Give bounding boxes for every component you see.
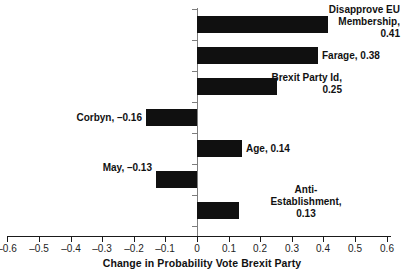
bar-label-farage: Farage, 0.38 [322,50,402,62]
x-axis-title: Change in Probability Vote Brexit Party [0,257,404,269]
x-axis-tick [39,237,40,242]
x-axis-tick-label: –0.3 [92,243,111,254]
x-axis-tick [260,237,261,242]
x-axis-tick [323,237,324,242]
x-axis-tick-label: –0.6 [0,243,17,254]
category-tick [192,133,197,134]
bar-age [197,140,242,157]
bar-label-age: Age, 0.14 [246,143,326,155]
bar-label-may: May, –0.13 [62,162,152,174]
bar-label-corbyn: Corbyn, –0.16 [44,112,142,124]
category-tick [192,164,197,165]
x-axis-tick-label: 0.3 [285,243,299,254]
bar-may [156,171,197,188]
x-axis-tick-label: –0.2 [124,243,143,254]
x-axis-tick [292,237,293,242]
bar-chart: Disapprove EU Membership, 0.41 Farage, 0… [0,0,404,272]
x-axis-tick [197,237,198,242]
x-axis-tick [71,237,72,242]
x-axis-tick [134,237,135,242]
bar-label-brexit-party-id: Brexit Party Id, 0.25 [216,72,342,96]
x-axis-tick [165,237,166,242]
category-tick [192,9,197,10]
x-axis-tick [7,237,8,242]
category-tick [192,226,197,227]
x-axis-tick [102,237,103,242]
x-axis-tick-label: –0.5 [29,243,48,254]
x-axis-line [7,236,391,237]
x-axis-tick-label: 0.4 [316,243,330,254]
x-axis-tick-label: 0.1 [222,243,236,254]
x-axis-tick-label: –0.4 [61,243,80,254]
x-axis-tick-label: 0 [194,243,200,254]
category-tick [192,102,197,103]
x-axis-tick [229,237,230,242]
x-axis-tick-label: 0.2 [253,243,267,254]
bar-farage [197,47,318,64]
category-tick [192,40,197,41]
bar-label-disapprove-eu-membership: Disapprove EU Membership, 0.41 [254,4,400,40]
plot-area: Disapprove EU Membership, 0.41 Farage, 0… [0,0,404,236]
category-tick [192,195,197,196]
bar-label-anti-establishment: Anti- Establishment, 0.13 [232,184,380,220]
x-axis-tick-label: 0.6 [380,243,394,254]
category-tick [192,71,197,72]
x-axis-tick-label: 0.5 [348,243,362,254]
x-axis-tick [355,237,356,242]
x-axis-tick [387,237,388,242]
bar-corbyn [146,109,197,126]
x-axis-tick-label: –0.1 [155,243,174,254]
